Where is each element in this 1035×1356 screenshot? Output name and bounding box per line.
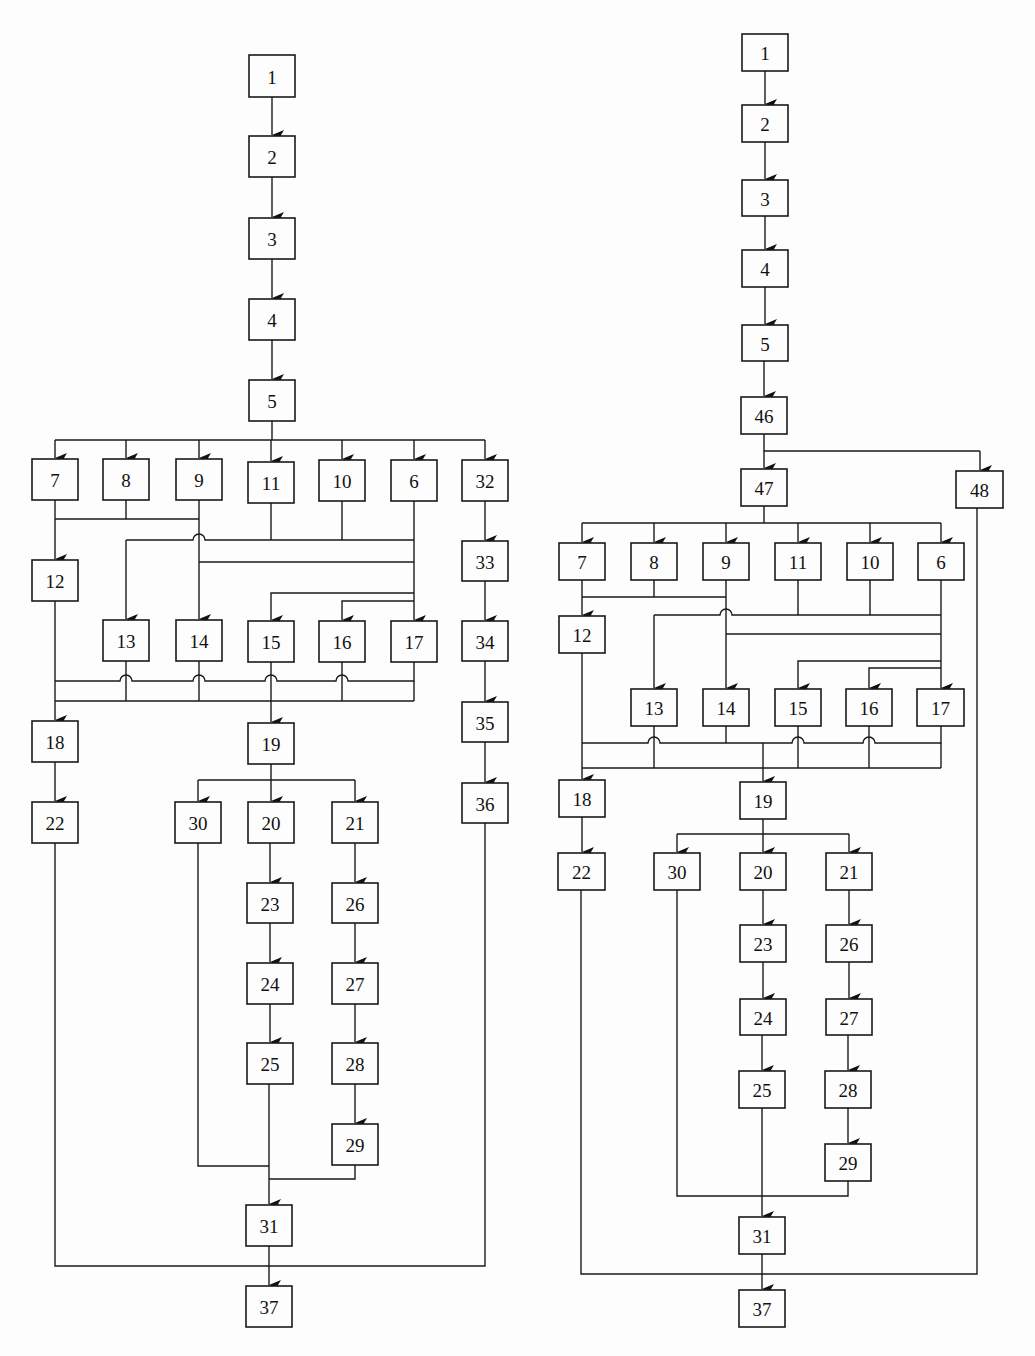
node-label: 3 <box>267 229 277 250</box>
node-label: 23 <box>754 934 773 955</box>
node-46: 46 <box>741 397 787 434</box>
flowchart-canvas: 1234578911106321233131415161734351819362… <box>0 0 1035 1356</box>
merge-7-8-9 <box>55 500 199 519</box>
node-label: 47 <box>755 478 774 499</box>
node-label: 20 <box>754 862 773 883</box>
node-24: 24 <box>247 963 293 1004</box>
node-label: 9 <box>194 470 204 491</box>
node-4: 4 <box>249 299 295 340</box>
merge-7-8-9 <box>582 580 726 597</box>
node-label: 15 <box>262 632 281 653</box>
node-26: 26 <box>332 883 378 923</box>
node-label: 19 <box>754 791 773 812</box>
node-label: 2 <box>760 114 770 135</box>
node-label: 46 <box>755 406 774 427</box>
node-label: 14 <box>717 698 737 719</box>
node-30: 30 <box>175 802 221 843</box>
node-label: 27 <box>346 974 365 995</box>
node-label: 18 <box>573 789 592 810</box>
bus-upper-output <box>582 726 941 743</box>
node-label: 21 <box>840 862 859 883</box>
node-27: 27 <box>826 999 872 1035</box>
node-18: 18 <box>32 721 78 762</box>
node-25: 25 <box>247 1043 293 1084</box>
node-label: 12 <box>573 625 592 646</box>
node-28: 28 <box>332 1043 378 1084</box>
node-label: 35 <box>476 713 495 734</box>
node-label: 9 <box>721 552 731 573</box>
node-label: 5 <box>267 391 277 412</box>
bus-from-47 <box>582 506 941 523</box>
node-label: 37 <box>260 1297 279 1318</box>
node-label: 3 <box>760 189 770 210</box>
node-21: 21 <box>826 853 872 890</box>
bus-11-10-6-to-13 <box>126 501 414 540</box>
node-3: 3 <box>249 218 295 259</box>
node-25: 25 <box>739 1071 785 1108</box>
split-19 <box>198 764 355 780</box>
node-8: 8 <box>103 459 149 500</box>
node-11: 11 <box>775 543 821 580</box>
node-13: 13 <box>103 620 149 661</box>
node-label: 28 <box>839 1080 858 1101</box>
node-label: 28 <box>346 1054 365 1075</box>
node-label: 22 <box>46 813 65 834</box>
node-29: 29 <box>825 1144 871 1181</box>
node-12: 12 <box>559 616 605 653</box>
node-31: 31 <box>246 1205 292 1246</box>
node-15: 15 <box>248 621 294 662</box>
edge-6-16 <box>869 668 941 688</box>
node-1: 1 <box>249 55 295 97</box>
node-label: 15 <box>789 698 808 719</box>
node-18: 18 <box>559 780 605 817</box>
node-17: 17 <box>917 689 964 726</box>
node-6: 6 <box>391 460 437 501</box>
node-label: 16 <box>333 632 352 653</box>
node-label: 30 <box>189 813 208 834</box>
node-label: 24 <box>754 1008 774 1029</box>
node-31: 31 <box>739 1217 785 1254</box>
node-7: 7 <box>32 459 78 500</box>
node-label: 30 <box>668 862 687 883</box>
node-22: 22 <box>558 853 605 890</box>
node-1: 1 <box>742 34 788 71</box>
node-23: 23 <box>247 883 293 923</box>
node-label: 31 <box>753 1226 772 1247</box>
node-19: 19 <box>740 782 786 819</box>
left-diagram-connectors <box>55 97 485 1285</box>
node-21: 21 <box>332 802 378 843</box>
node-24: 24 <box>740 999 786 1035</box>
node-label: 19 <box>262 734 281 755</box>
node-label: 11 <box>789 552 807 573</box>
node-37: 37 <box>246 1286 292 1327</box>
node-26: 26 <box>826 925 872 962</box>
left-diagram-nodes: 1234578911106321233131415161734351819362… <box>32 55 508 1327</box>
node-label: 21 <box>346 813 365 834</box>
node-label: 31 <box>260 1216 279 1237</box>
node-20: 20 <box>248 802 294 843</box>
node-label: 29 <box>839 1153 858 1174</box>
node-label: 6 <box>409 471 419 492</box>
right-diagram-nodes: 1234546474878911106121314151617181922302… <box>558 34 1003 1327</box>
node-30: 30 <box>654 853 700 890</box>
node-label: 32 <box>476 471 495 492</box>
node-10: 10 <box>847 543 893 580</box>
split-19 <box>677 819 849 834</box>
node-14: 14 <box>703 689 749 726</box>
node-5: 5 <box>742 325 788 361</box>
node-label: 16 <box>860 698 879 719</box>
node-label: 6 <box>936 552 946 573</box>
node-10: 10 <box>319 460 365 501</box>
node-label: 1 <box>760 43 770 64</box>
node-8: 8 <box>631 543 677 580</box>
node-label: 26 <box>840 934 859 955</box>
node-label: 7 <box>50 470 60 491</box>
node-28: 28 <box>825 1071 871 1108</box>
node-label: 23 <box>261 894 280 915</box>
node-label: 34 <box>476 632 496 653</box>
edge-6-16 <box>342 601 414 620</box>
node-47: 47 <box>741 469 787 506</box>
node-label: 29 <box>346 1135 365 1156</box>
node-35: 35 <box>462 702 508 742</box>
node-label: 8 <box>649 552 659 573</box>
